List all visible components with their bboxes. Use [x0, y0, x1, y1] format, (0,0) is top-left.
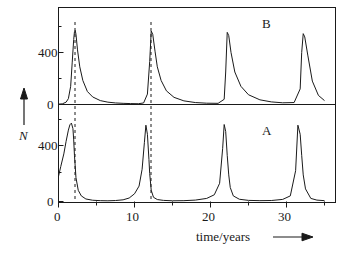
y-axis-label: N	[19, 129, 28, 142]
panel-b-yticks	[59, 27, 64, 105]
curve-series-b	[59, 30, 325, 104]
x-axis-title: time/years	[196, 230, 250, 243]
panel-a-yticks	[59, 120, 64, 202]
xtick-label-30: 30	[278, 210, 291, 223]
curve-series-a	[59, 123, 325, 201]
xtick-label-20: 20	[202, 210, 215, 223]
panel-a-ytick-400: 400	[38, 139, 58, 152]
population-dynamics-figure	[0, 0, 347, 254]
dashed-guide-lines	[75, 22, 151, 201]
xtick-label-10: 10	[126, 210, 139, 223]
panel-b-ytick-400: 400	[38, 46, 58, 59]
panel-a-ytick-0: 0	[47, 195, 54, 208]
y-axis-arrow-icon	[21, 88, 28, 125]
panel-b-ytick-0: 0	[47, 98, 54, 111]
xtick-label-0: 0	[54, 210, 61, 223]
panel-label-a: A	[262, 124, 271, 137]
plot-frame	[59, 8, 336, 203]
panel-label-b: B	[262, 17, 271, 30]
x-axis-arrow-icon	[273, 233, 313, 241]
